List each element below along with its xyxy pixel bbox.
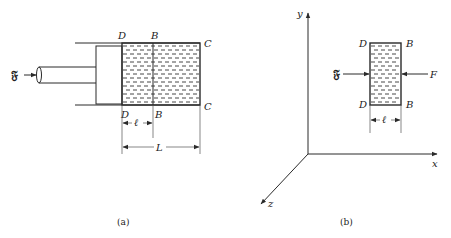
force-label-right-b: F [429,69,438,80]
piston-rod-end [37,67,42,83]
caption-b: (b) [340,217,353,227]
caption-a: (a) [117,217,129,227]
label-b-bottom: B [154,109,162,120]
z-axis [261,154,308,204]
dim-label-l-b: ℓ [382,114,386,125]
label-d-top: D [117,30,126,41]
label-b-bottom-b: B [405,99,413,110]
figure-b: y x z D B D B 𝔉 F ℓ (b) [261,8,438,227]
label-c-bottom: C [204,101,212,112]
label-d-bottom-b: D [358,99,367,110]
x-axis-label: x [432,158,438,169]
dim-label-L: L [155,142,163,153]
figure-a: 𝔉 D B C D B C ℓ L (a) [11,30,212,227]
y-axis-label: y [296,8,303,19]
label-d-bottom: D [120,109,129,120]
fluid-region-b [371,46,399,102]
force-label-left-b: 𝔉 [333,68,340,81]
z-axis-label: z [267,198,274,209]
label-d-top-b: D [358,38,367,49]
force-label-a: 𝔉 [11,69,18,82]
label-b-top-b: B [405,38,413,49]
piston [96,46,122,104]
label-b-top: B [150,30,158,41]
fluid-region-a [123,46,199,102]
label-c-top: C [204,38,212,49]
dim-label-l-a: ℓ [134,117,138,128]
diagram-canvas: 𝔉 D B C D B C ℓ L (a) y x z D [0,0,451,238]
